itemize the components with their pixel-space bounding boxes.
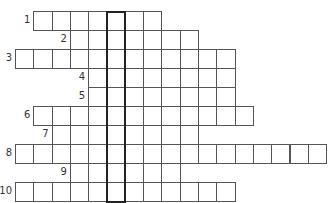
crossword-cell[interactable] xyxy=(15,49,34,69)
crossword-grid: 12345678910 xyxy=(0,0,331,203)
crossword-cell[interactable] xyxy=(143,144,162,164)
crossword-cell[interactable] xyxy=(125,30,144,50)
crossword-cell[interactable] xyxy=(216,182,235,202)
crossword-cell[interactable] xyxy=(161,87,180,107)
crossword-cell[interactable] xyxy=(88,144,107,164)
crossword-cell[interactable] xyxy=(161,30,180,50)
crossword-cell[interactable] xyxy=(198,106,217,126)
crossword-cell[interactable] xyxy=(52,106,71,126)
crossword-cell[interactable] xyxy=(88,11,107,31)
crossword-cell[interactable] xyxy=(107,144,126,164)
crossword-cell[interactable] xyxy=(143,106,162,126)
crossword-cell[interactable] xyxy=(107,125,126,145)
crossword-cell[interactable] xyxy=(180,30,199,50)
crossword-cell[interactable] xyxy=(125,182,144,202)
crossword-cell[interactable] xyxy=(52,144,71,164)
crossword-cell[interactable] xyxy=(198,68,217,88)
crossword-cell[interactable] xyxy=(180,144,199,164)
crossword-cell[interactable] xyxy=(52,182,71,202)
crossword-cell[interactable] xyxy=(290,144,309,164)
crossword-cell[interactable] xyxy=(143,87,162,107)
crossword-cell[interactable] xyxy=(70,125,89,145)
crossword-cell[interactable] xyxy=(70,11,89,31)
crossword-cell[interactable] xyxy=(271,144,290,164)
crossword-cell[interactable] xyxy=(107,49,126,69)
crossword-cell[interactable] xyxy=(88,106,107,126)
crossword-cell[interactable] xyxy=(253,144,272,164)
crossword-cell[interactable] xyxy=(308,144,327,164)
crossword-cell[interactable] xyxy=(33,144,52,164)
crossword-cell[interactable] xyxy=(125,163,144,183)
clue-number: 1 xyxy=(16,14,30,26)
crossword-cell[interactable] xyxy=(15,182,34,202)
crossword-cell[interactable] xyxy=(161,182,180,202)
crossword-cell[interactable] xyxy=(180,182,199,202)
crossword-cell[interactable] xyxy=(143,30,162,50)
crossword-cell[interactable] xyxy=(88,30,107,50)
crossword-cell[interactable] xyxy=(143,182,162,202)
crossword-cell[interactable] xyxy=(180,87,199,107)
crossword-cell[interactable] xyxy=(125,125,144,145)
crossword-cell[interactable] xyxy=(107,106,126,126)
crossword-cell[interactable] xyxy=(33,182,52,202)
crossword-cell[interactable] xyxy=(216,49,235,69)
crossword-cell[interactable] xyxy=(107,182,126,202)
crossword-cell[interactable] xyxy=(125,11,144,31)
crossword-cell[interactable] xyxy=(235,144,254,164)
crossword-cell[interactable] xyxy=(52,11,71,31)
crossword-cell[interactable] xyxy=(235,106,254,126)
crossword-cell[interactable] xyxy=(125,49,144,69)
crossword-cell[interactable] xyxy=(143,68,162,88)
crossword-cell[interactable] xyxy=(70,106,89,126)
crossword-cell[interactable] xyxy=(33,11,52,31)
crossword-cell[interactable] xyxy=(216,87,235,107)
crossword-cell[interactable] xyxy=(107,87,126,107)
crossword-cell[interactable] xyxy=(161,144,180,164)
crossword-cell[interactable] xyxy=(143,163,162,183)
crossword-cell[interactable] xyxy=(15,144,34,164)
crossword-cell[interactable] xyxy=(198,182,217,202)
crossword-cell[interactable] xyxy=(88,125,107,145)
crossword-cell[interactable] xyxy=(107,68,126,88)
crossword-cell[interactable] xyxy=(125,106,144,126)
crossword-cell[interactable] xyxy=(88,182,107,202)
crossword-cell[interactable] xyxy=(125,68,144,88)
crossword-cell[interactable] xyxy=(161,68,180,88)
crossword-cell[interactable] xyxy=(33,106,52,126)
crossword-cell[interactable] xyxy=(180,125,199,145)
crossword-cell[interactable] xyxy=(70,49,89,69)
crossword-cell[interactable] xyxy=(216,144,235,164)
crossword-cell[interactable] xyxy=(33,49,52,69)
clue-number: 9 xyxy=(53,166,67,178)
crossword-cell[interactable] xyxy=(143,49,162,69)
crossword-cell[interactable] xyxy=(70,163,89,183)
crossword-cell[interactable] xyxy=(70,182,89,202)
crossword-cell[interactable] xyxy=(143,125,162,145)
crossword-cell[interactable] xyxy=(180,49,199,69)
crossword-cell[interactable] xyxy=(125,87,144,107)
crossword-cell[interactable] xyxy=(107,163,126,183)
crossword-cell[interactable] xyxy=(161,106,180,126)
crossword-cell[interactable] xyxy=(70,144,89,164)
crossword-cell[interactable] xyxy=(161,163,180,183)
crossword-cell[interactable] xyxy=(88,49,107,69)
crossword-cell[interactable] xyxy=(107,30,126,50)
crossword-cell[interactable] xyxy=(198,144,217,164)
crossword-cell[interactable] xyxy=(107,11,126,31)
crossword-cell[interactable] xyxy=(88,68,107,88)
crossword-cell[interactable] xyxy=(216,68,235,88)
crossword-cell[interactable] xyxy=(52,125,71,145)
crossword-cell[interactable] xyxy=(161,125,180,145)
crossword-cell[interactable] xyxy=(180,68,199,88)
crossword-cell[interactable] xyxy=(52,49,71,69)
crossword-cell[interactable] xyxy=(143,11,162,31)
crossword-cell[interactable] xyxy=(198,49,217,69)
crossword-cell[interactable] xyxy=(161,49,180,69)
crossword-cell[interactable] xyxy=(180,106,199,126)
crossword-cell[interactable] xyxy=(125,144,144,164)
crossword-cell[interactable] xyxy=(216,106,235,126)
crossword-cell[interactable] xyxy=(88,163,107,183)
crossword-cell[interactable] xyxy=(88,87,107,107)
crossword-cell[interactable] xyxy=(198,87,217,107)
crossword-cell[interactable] xyxy=(70,30,89,50)
